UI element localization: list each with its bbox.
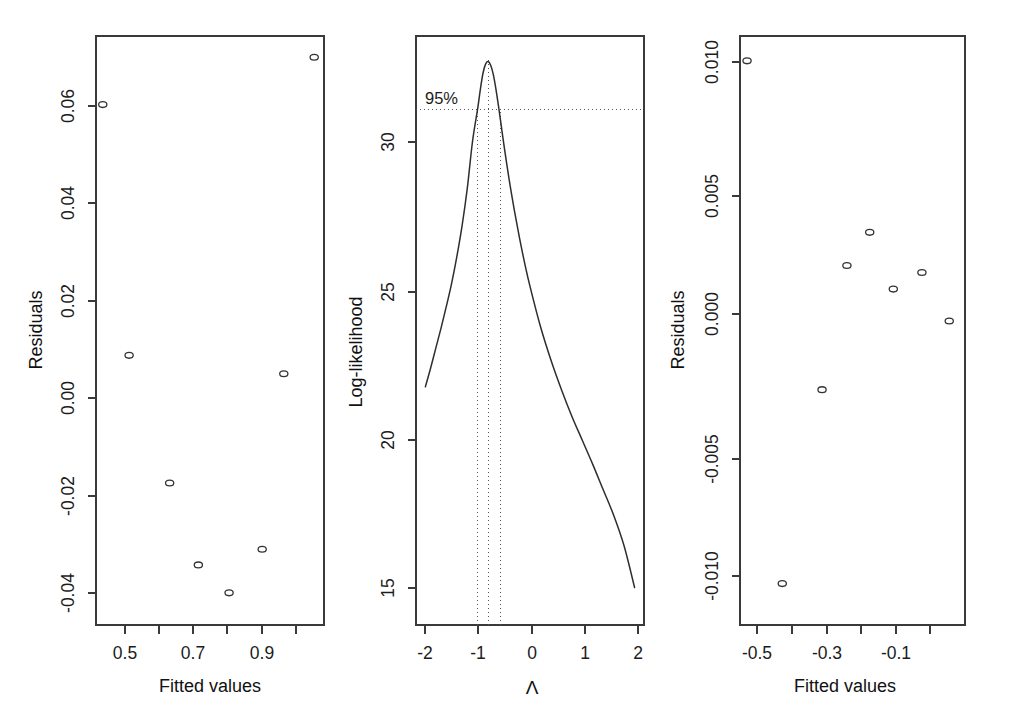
data-point	[889, 286, 897, 292]
panel3-y-ticks	[732, 62, 740, 576]
panel3-y-tick-label: -0.005	[702, 434, 722, 484]
panel3-x-ticks	[757, 625, 930, 634]
panel3-x-tick-label: -0.1	[881, 643, 911, 663]
data-point	[778, 581, 786, 587]
data-point	[945, 318, 953, 324]
panel3-x-tick-label: -0.5	[742, 643, 772, 663]
panel3-x-tick-labels: -0.5 -0.3 -0.1	[742, 643, 911, 663]
panel3-data-points	[743, 58, 953, 587]
panel3-y-axis-title: Residuals	[668, 290, 688, 369]
panel3-x-tick-label: -0.3	[812, 643, 842, 663]
data-point	[818, 387, 826, 393]
panel3-y-tick-label: -0.010	[702, 551, 722, 601]
panel3-y-tick-label: 0.000	[702, 292, 722, 336]
panel3-y-tick-label: 0.010	[702, 40, 722, 84]
panel3-plot-box	[740, 36, 965, 625]
figure-canvas: 0.06 0.04 0.02 0.00 -0.02 -0.04 Residual…	[0, 0, 1012, 724]
panel3-y-tick-labels: 0.010 0.005 0.000 -0.005 -0.010	[702, 40, 722, 601]
data-point	[843, 263, 851, 269]
data-point	[918, 270, 926, 276]
panel3-x-axis-title: Fitted values	[794, 676, 896, 696]
data-point	[866, 229, 874, 235]
data-point	[743, 58, 751, 64]
panel-residuals-vs-fitted-transformed: 0.010 0.005 0.000 -0.005 -0.010 Residual…	[0, 0, 1012, 724]
panel3-y-tick-label: 0.005	[702, 174, 722, 218]
